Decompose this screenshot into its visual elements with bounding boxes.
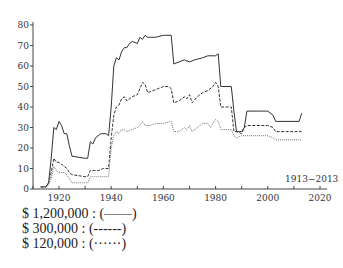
svg-text:1960: 1960 [152, 193, 175, 203]
series-line-1 [41, 82, 302, 186]
series-line-2 [41, 119, 302, 187]
legend-item-1200000: $ 1,200,000 : (——) [22, 206, 137, 221]
svg-text:80: 80 [18, 20, 30, 30]
svg-text:40: 40 [18, 102, 30, 112]
svg-text:10: 10 [18, 164, 30, 174]
svg-text:70: 70 [18, 41, 30, 51]
year-range-annotation: 1913−2013 [285, 174, 339, 184]
svg-text:2000: 2000 [256, 193, 279, 203]
svg-text:0: 0 [23, 184, 29, 194]
svg-text:60: 60 [18, 61, 30, 71]
svg-text:30: 30 [18, 123, 30, 133]
svg-text:1920: 1920 [48, 193, 71, 203]
legend-item-120000: $ 120,000 : (······) [22, 236, 137, 251]
svg-text:20: 20 [18, 143, 30, 153]
svg-text:50: 50 [18, 82, 30, 92]
series-line-0 [41, 35, 302, 187]
svg-text:1980: 1980 [204, 193, 227, 203]
svg-text:1940: 1940 [100, 193, 123, 203]
line-chart: 0102030405060708019201940196019802000202… [0, 0, 343, 205]
legend: $ 1,200,000 : (——) $ 300,000 : (------) … [22, 206, 137, 251]
legend-item-300000: $ 300,000 : (------) [22, 221, 137, 236]
chart-series [41, 35, 302, 187]
svg-text:2020: 2020 [309, 193, 332, 203]
